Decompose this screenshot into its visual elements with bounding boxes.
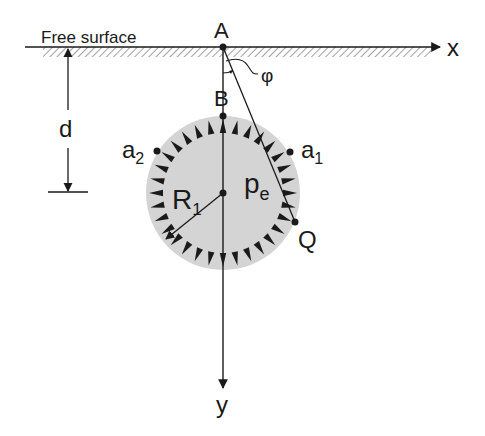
free-surface-label: Free surface [41,28,136,47]
point-b-dot [220,113,227,120]
point-a-dot [220,44,227,51]
ground-hatching [43,47,431,57]
x-axis-label: x [447,34,459,61]
point-b-label: B [214,86,229,111]
point-a-label: A [214,18,229,43]
point-a2-dot [154,148,161,155]
point-a1-dot [287,149,294,156]
depth-label: d [59,115,72,142]
angle-label: φ [261,65,273,86]
center-dot [220,190,227,197]
point-a2-label: a2 [122,136,144,167]
point-a1-label: a1 [301,136,323,167]
y-axis-label: y [216,391,228,418]
point-q-label: Q [298,226,317,253]
tunnel-diagram: x Free surface y φ A B a2 a1 Q R1 pe d [0,0,485,436]
point-q-dot [292,219,299,226]
